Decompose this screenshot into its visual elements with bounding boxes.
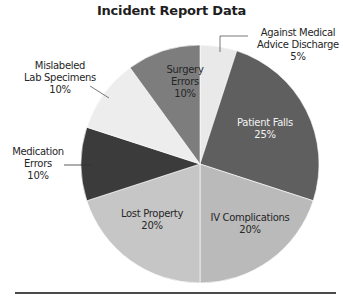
label-surg-line2: Errors	[155, 76, 215, 88]
label-mis-line1: Mislabeled	[15, 60, 105, 72]
label-iv-name: IV Complications	[200, 212, 300, 224]
label-surg-pct: 10%	[155, 88, 215, 100]
label-mis-line2: Lab Specimens	[15, 72, 105, 84]
label-med-line1: Medication	[8, 146, 68, 158]
label-med-line2: Errors	[8, 158, 68, 170]
bottom-rule	[15, 292, 336, 294]
label-surgery-errors: Surgery Errors 10%	[155, 64, 215, 100]
label-mis-pct: 10%	[15, 84, 105, 96]
label-surg-line1: Surgery	[155, 64, 215, 76]
label-falls-pct: 25%	[225, 129, 305, 141]
label-falls-name: Patient Falls	[225, 117, 305, 129]
label-mislabeled-lab: Mislabeled Lab Specimens 10%	[15, 60, 105, 96]
label-ama-pct: 5%	[248, 51, 343, 63]
label-med-pct: 10%	[8, 170, 68, 182]
label-lost-name: Lost Property	[112, 208, 192, 220]
label-lost-pct: 20%	[112, 220, 192, 232]
label-iv-pct: 20%	[200, 224, 300, 236]
label-ama-line1: Against Medical	[248, 27, 343, 39]
label-medication-errors: Medication Errors 10%	[8, 146, 68, 182]
label-ama-line2: Advice Discharge	[248, 39, 343, 51]
label-iv-complications: IV Complications 20%	[200, 212, 300, 236]
label-ama: Against Medical Advice Discharge 5%	[248, 27, 343, 63]
label-lost-property: Lost Property 20%	[112, 208, 192, 232]
label-patient-falls: Patient Falls 25%	[225, 117, 305, 141]
